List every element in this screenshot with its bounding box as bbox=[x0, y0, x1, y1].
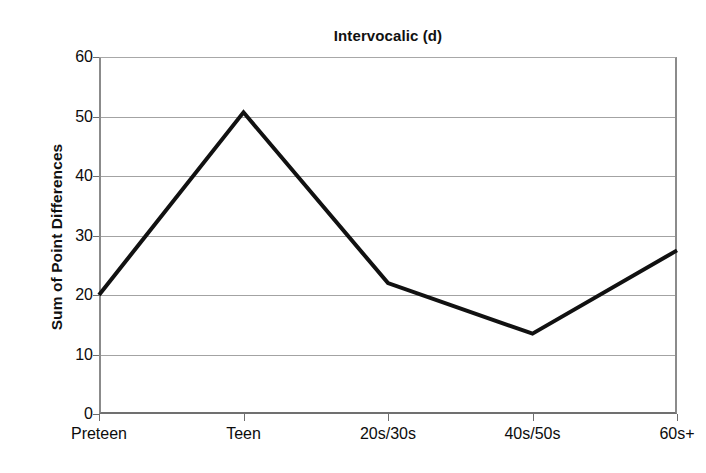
x-tick-label-4: 60s+ bbox=[602, 426, 706, 442]
x-tick-label-3: 40s/50s bbox=[458, 426, 608, 442]
x-tick-label-0: Preteen bbox=[24, 426, 174, 442]
x-tick-mark-4 bbox=[677, 414, 678, 421]
scan-artifact-strip bbox=[12, 462, 432, 471]
x-tick-mark-2 bbox=[388, 414, 389, 421]
plot-area bbox=[99, 57, 677, 414]
data-series-line bbox=[99, 112, 677, 333]
x-tick-mark-0 bbox=[99, 414, 100, 421]
chart-figure: Intervocalic (d) Sum of Point Difference… bbox=[0, 0, 706, 473]
x-tick-mark-1 bbox=[244, 414, 245, 421]
x-tick-mark-3 bbox=[533, 414, 534, 421]
chart-title: Intervocalic (d) bbox=[99, 27, 677, 44]
x-tick-label-2: 20s/30s bbox=[313, 426, 463, 442]
data-line-svg bbox=[99, 57, 677, 414]
x-tick-label-1: Teen bbox=[169, 426, 319, 442]
